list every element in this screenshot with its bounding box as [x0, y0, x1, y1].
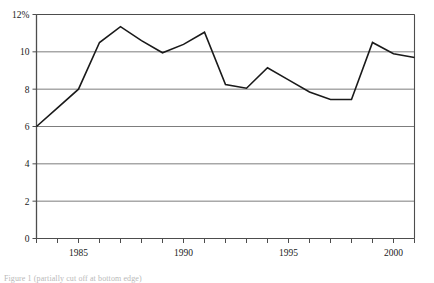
y-tick-label-10: 10: [20, 47, 30, 57]
y-tick-label-0: 0: [25, 234, 30, 244]
y-tick-label-2: 2: [25, 197, 30, 207]
y-tick-label-8: 8: [25, 85, 30, 95]
x-tick-label-2000: 2000: [384, 248, 403, 258]
x-tick-label-1985: 1985: [69, 248, 88, 258]
x-tick-label-1995: 1995: [279, 248, 298, 258]
x-tick-label-1990: 1990: [174, 248, 193, 258]
y-tick-label-4: 4: [25, 159, 30, 169]
figure-caption: Figure 1 (partially cut off at bottom ed…: [4, 274, 142, 283]
y-tick-label-6: 6: [25, 122, 30, 132]
y-tick-label-12: 12%: [12, 10, 30, 20]
